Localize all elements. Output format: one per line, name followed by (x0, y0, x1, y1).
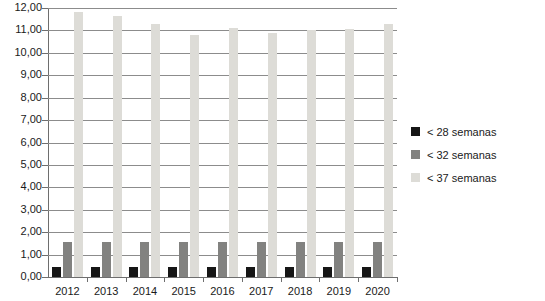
bar[interactable] (362, 267, 371, 277)
x-axis-label: 2014 (126, 285, 165, 297)
legend: < 28 semanas < 32 semanas < 37 semanas (411, 120, 541, 189)
bar-group (362, 8, 393, 277)
y-axis-label: 10,00 (2, 47, 42, 58)
bar[interactable] (74, 12, 83, 277)
y-axis-tick (42, 232, 48, 233)
bar[interactable] (190, 35, 199, 277)
y-axis-tick (42, 120, 48, 121)
bar[interactable] (218, 242, 227, 277)
bar[interactable] (179, 242, 188, 277)
bar-group (91, 8, 122, 277)
y-axis-label: 9,00 (2, 69, 42, 80)
y-axis-tick (42, 255, 48, 256)
x-axis-tick (242, 277, 243, 282)
bar[interactable] (168, 267, 177, 277)
legend-swatch-icon (411, 150, 420, 159)
x-axis-label: 2017 (242, 285, 281, 297)
bar[interactable] (91, 267, 100, 277)
bar[interactable] (384, 24, 393, 277)
bar[interactable] (113, 16, 122, 277)
bar[interactable] (246, 267, 255, 277)
legend-swatch-icon (411, 173, 420, 182)
x-axis-tick (397, 277, 398, 282)
bar[interactable] (334, 242, 343, 277)
y-axis-label: 3,00 (2, 204, 42, 215)
y-axis-label: 2,00 (2, 226, 42, 237)
bar[interactable] (307, 30, 316, 277)
plot-area (48, 8, 397, 277)
x-axis-label: 2016 (203, 285, 242, 297)
bar[interactable] (52, 267, 61, 277)
y-axis-tick (42, 8, 48, 9)
x-axis-label: 2013 (87, 285, 126, 297)
x-axis-tick (319, 277, 320, 282)
bar[interactable] (373, 242, 382, 277)
bar[interactable] (257, 242, 266, 277)
bar[interactable] (296, 242, 305, 277)
x-axis-tick (164, 277, 165, 282)
y-axis-tick (42, 210, 48, 211)
x-axis-tick (87, 277, 88, 282)
y-axis-label: 1,00 (2, 249, 42, 260)
bar[interactable] (151, 24, 160, 277)
x-axis-label: 2012 (48, 285, 87, 297)
y-axis-label: 5,00 (2, 159, 42, 170)
legend-item[interactable]: < 37 semanas (411, 166, 541, 189)
bar[interactable] (207, 267, 216, 277)
x-axis-label: 2018 (281, 285, 320, 297)
bar[interactable] (323, 267, 332, 277)
legend-item-label: < 28 semanas (427, 126, 496, 138)
x-axis-tick (358, 277, 359, 282)
bar-group (323, 8, 354, 277)
bar[interactable] (345, 29, 354, 277)
y-axis-tick (42, 143, 48, 144)
x-axis-tick (281, 277, 282, 282)
bar[interactable] (140, 242, 149, 277)
bar[interactable] (229, 28, 238, 277)
legend-item-label: < 32 semanas (427, 149, 496, 161)
y-axis-label: 12,00 (2, 2, 42, 13)
y-axis-tick (42, 30, 48, 31)
y-axis-tick (42, 98, 48, 99)
bar[interactable] (268, 33, 277, 277)
bar[interactable] (63, 242, 72, 277)
x-axis-label: 2015 (164, 285, 203, 297)
y-axis-label: 4,00 (2, 181, 42, 192)
bar[interactable] (129, 267, 138, 277)
y-axis-tick (42, 187, 48, 188)
bar-group (246, 8, 277, 277)
bar[interactable] (102, 242, 111, 277)
bar-group (285, 8, 316, 277)
y-axis-tick (42, 75, 48, 76)
x-axis-label: 2019 (319, 285, 358, 297)
y-axis-label: 6,00 (2, 137, 42, 148)
y-axis-tick (42, 277, 48, 278)
y-axis-label: 8,00 (2, 92, 42, 103)
y-axis-tick (42, 165, 48, 166)
bar-chart: 0,001,002,003,004,005,006,007,008,009,00… (0, 0, 545, 301)
y-axis-label: 11,00 (2, 24, 42, 35)
x-axis-label: 2020 (358, 285, 397, 297)
bar[interactable] (285, 267, 294, 277)
x-axis-tick (126, 277, 127, 282)
legend-item[interactable]: < 32 semanas (411, 143, 541, 166)
x-axis-tick (203, 277, 204, 282)
x-axis-line (48, 277, 398, 278)
legend-item[interactable]: < 28 semanas (411, 120, 541, 143)
bar-group (207, 8, 238, 277)
y-axis-tick (42, 53, 48, 54)
legend-swatch-icon (411, 127, 420, 136)
bar-group (129, 8, 160, 277)
bar-group (52, 8, 83, 277)
y-axis-label: 0,00 (2, 271, 42, 282)
legend-item-label: < 37 semanas (427, 172, 496, 184)
y-axis: 0,001,002,003,004,005,006,007,008,009,00… (0, 0, 42, 301)
y-axis-label: 7,00 (2, 114, 42, 125)
bar-group (168, 8, 199, 277)
